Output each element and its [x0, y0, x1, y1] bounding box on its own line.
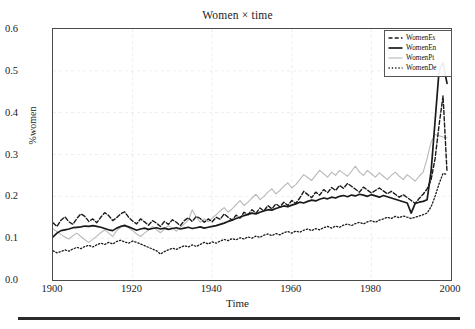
legend-label: WomenPt: [406, 54, 434, 62]
series-line-womenen: [53, 62, 447, 236]
legend-item[interactable]: WomenEs: [388, 33, 449, 42]
y-tick-label: 0.6: [0, 23, 18, 34]
y-tick-label: 0.2: [0, 190, 18, 201]
x-tick-label: 1900: [27, 283, 77, 294]
x-tick-label: 1940: [186, 283, 236, 294]
chart-title: Women × time: [0, 9, 475, 21]
x-tick-label: 1920: [107, 283, 157, 294]
legend-item[interactable]: WomenEn: [388, 43, 449, 52]
chart-legend: WomenEsWomenEnWomenPtWomenDe: [384, 30, 452, 77]
x-tick-label: 2000: [425, 283, 475, 294]
x-axis-label: Time: [0, 297, 475, 309]
legend-item[interactable]: WomenPt: [388, 53, 449, 62]
footer-rule: [18, 317, 460, 320]
x-tick-label: 1980: [345, 283, 395, 294]
legend-line-sample-womenpt-icon: [388, 54, 403, 62]
y-tick-label: 0.1: [0, 232, 18, 243]
y-tick-label: 0.0: [0, 274, 18, 285]
legend-line-sample-womenen-icon: [388, 44, 403, 52]
legend-label: WomenEs: [406, 34, 435, 42]
chart-figure: Women × time %women Time 0.00.10.20.30.4…: [0, 0, 475, 329]
series-line-womenpt: [53, 134, 447, 242]
series-line-womenes: [53, 96, 447, 227]
y-tick-label: 0.5: [0, 64, 18, 75]
legend-label: WomenEn: [406, 44, 436, 52]
legend-line-sample-womende-icon: [388, 64, 403, 72]
legend-line-sample-womenes-icon: [388, 34, 403, 42]
y-tick-label: 0.4: [0, 106, 18, 117]
y-tick-label: 0.3: [0, 148, 18, 159]
y-axis-label: %women: [27, 86, 38, 166]
legend-item[interactable]: WomenDe: [388, 63, 449, 72]
x-tick-label: 1960: [266, 283, 316, 294]
legend-label: WomenDe: [406, 64, 437, 72]
